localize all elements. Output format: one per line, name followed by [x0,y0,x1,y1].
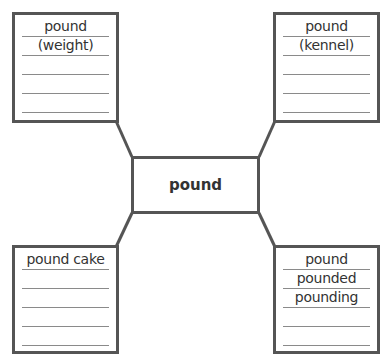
write-line [22,345,109,346]
center-word-box: pound [131,156,260,214]
box-pound-weight: pound (weight) [12,12,119,123]
write-line [22,74,109,75]
box-word: pound [276,17,377,35]
write-line [283,326,370,327]
box-word: pounding [276,288,377,306]
write-line [22,288,109,289]
write-line [283,307,370,308]
write-line [283,74,370,75]
box-word: (weight) [15,36,116,54]
write-line [283,93,370,94]
write-line [22,93,109,94]
box-word: pound [276,250,377,268]
write-line [22,55,109,56]
write-line [22,326,109,327]
write-line [22,112,109,113]
box-pound-kennel: pound (kennel) [273,12,380,123]
box-pound-forms: pound pounded pounding [273,245,380,354]
box-word: pounded [276,269,377,287]
box-word: pound cake [15,250,116,268]
write-line [283,55,370,56]
write-line [283,112,370,113]
box-pound-cake: pound cake [12,245,119,354]
write-line [22,269,109,270]
box-word: pound [15,17,116,35]
write-line [22,307,109,308]
write-line [283,345,370,346]
center-word: pound [169,176,222,194]
box-word: (kennel) [276,36,377,54]
